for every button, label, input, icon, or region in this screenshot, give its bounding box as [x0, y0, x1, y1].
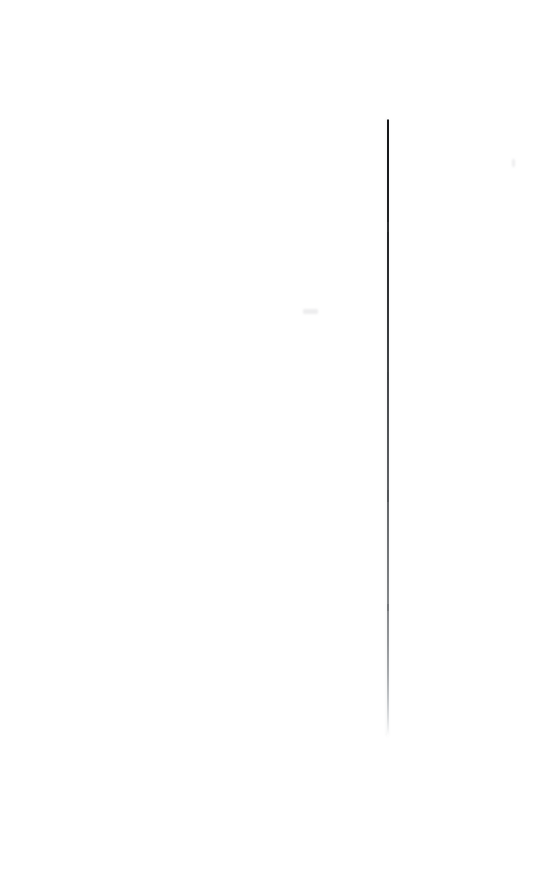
scan-line-node-bottom [387, 604, 389, 611]
scanned-page-canvas [0, 0, 546, 884]
page-speck-left [303, 309, 318, 314]
scan-line-node-mid [387, 372, 389, 380]
vertical-scan-line [387, 118, 389, 736]
scan-line-node-lower [387, 490, 389, 502]
scan-line-node-upper [387, 222, 389, 232]
page-speck-right [512, 159, 515, 167]
